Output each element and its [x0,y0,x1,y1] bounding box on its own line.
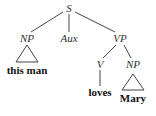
leaf-loves: loves [88,86,112,98]
edge-s-vp [75,12,115,32]
leaf-mary: Mary [120,92,147,104]
triangle-object-np [122,74,144,90]
edge-vp-v [103,45,116,58]
node-v: V [97,58,105,70]
node-subject-np: NP [19,32,34,44]
syntax-tree-diagram: S NP Aux VP V NP this man loves Mary [0,0,156,116]
node-aux: Aux [59,32,77,44]
node-object-np: NP [125,58,140,70]
node-s: S [66,2,72,14]
triangle-subject-np [16,45,38,62]
leaf-this-man: this man [7,64,48,76]
edge-vp-np [124,45,131,58]
edge-s-np [31,12,63,32]
node-vp: VP [113,32,127,44]
